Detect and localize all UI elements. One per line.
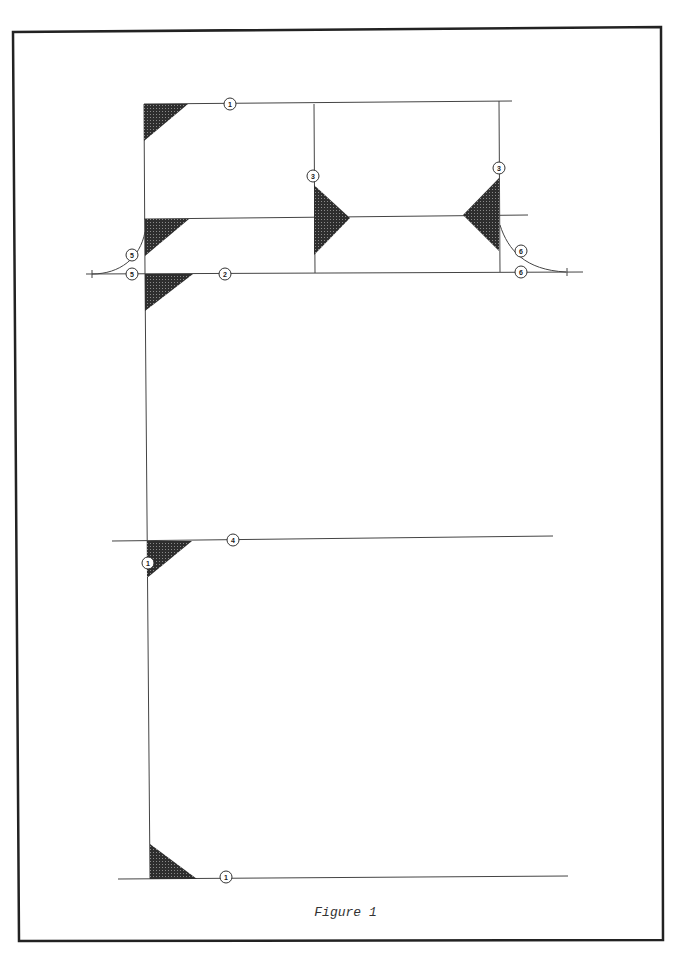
svg-text:6: 6 <box>519 248 523 255</box>
joint-hatches <box>144 104 499 879</box>
beam-lower <box>86 272 583 274</box>
svg-text:1: 1 <box>224 874 228 881</box>
callout-l3: 3 <box>493 162 505 174</box>
callout-l7: 6 <box>515 245 527 257</box>
svg-text:3: 3 <box>311 173 315 180</box>
callout-l8: 6 <box>515 266 527 278</box>
page-frame <box>13 27 663 941</box>
svg-text:5: 5 <box>130 271 134 278</box>
svg-text:1: 1 <box>228 101 232 108</box>
beam-4 <box>112 536 553 541</box>
callout-l11: 1 <box>220 871 232 883</box>
curve-6 <box>500 225 566 272</box>
svg-text:6: 6 <box>519 269 523 276</box>
structural-diagram: 13355266411 <box>0 0 691 958</box>
svg-text:1: 1 <box>146 560 150 567</box>
callout-l9: 4 <box>227 534 239 546</box>
callout-l2: 3 <box>307 170 319 182</box>
svg-text:5: 5 <box>130 252 134 259</box>
callout-l5: 5 <box>126 268 138 280</box>
figure-caption: Figure 1 <box>0 905 691 920</box>
column-right <box>499 101 500 272</box>
callout-l10: 1 <box>142 557 154 569</box>
callout-l6: 2 <box>219 268 231 280</box>
svg-text:2: 2 <box>223 271 227 278</box>
callout-l1: 1 <box>224 98 236 110</box>
svg-text:3: 3 <box>497 165 501 172</box>
beam-top <box>144 101 512 104</box>
svg-text:4: 4 <box>231 537 235 544</box>
callout-l4: 5 <box>126 249 138 261</box>
